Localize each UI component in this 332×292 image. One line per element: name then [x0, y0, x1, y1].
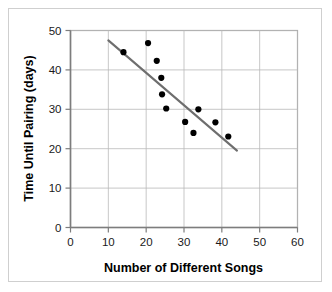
x-tick-label: 30 [178, 236, 191, 248]
data-point [225, 133, 231, 139]
data-point [145, 40, 151, 46]
data-point [159, 91, 165, 97]
x-tick-label: 20 [140, 236, 153, 248]
data-point [154, 58, 160, 64]
data-point [212, 119, 218, 125]
x-tick-label: 50 [253, 236, 266, 248]
scatter-plot: 0102030405060 01020304050 Number of Diff… [0, 0, 332, 292]
x-tick-label: 40 [215, 236, 228, 248]
y-tick-label: 10 [49, 182, 62, 194]
x-tick-label: 60 [291, 236, 304, 248]
y-tick-label: 30 [49, 103, 62, 115]
y-tick-labels: 01020304050 [49, 25, 62, 234]
y-tick-label: 50 [49, 25, 62, 37]
data-point [163, 105, 169, 111]
y-axis-title: Time Until Pairing (days) [22, 55, 36, 201]
data-point [195, 106, 201, 112]
y-tick-label: 0 [55, 222, 61, 234]
data-point [158, 75, 164, 81]
data-point [120, 49, 126, 55]
data-point [182, 119, 188, 125]
data-point [190, 130, 196, 136]
x-tick-label: 10 [102, 236, 115, 248]
x-tick-label: 0 [67, 236, 73, 248]
x-tick-labels: 0102030405060 [67, 236, 304, 248]
x-axis-title: Number of Different Songs [104, 261, 263, 275]
y-tick-label: 40 [49, 64, 62, 76]
chart-container: 0102030405060 01020304050 Number of Diff… [0, 0, 332, 292]
y-tick-label: 20 [49, 143, 62, 155]
